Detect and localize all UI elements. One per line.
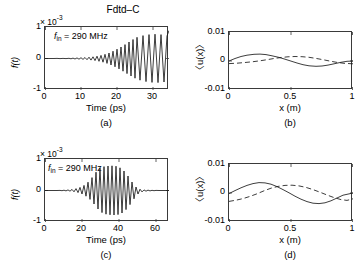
panel-a-annotation-sub: in xyxy=(57,35,62,42)
panel-d-curve-solid xyxy=(229,183,353,204)
panel-a-xlabel: Time (ps) xyxy=(56,102,156,113)
panel-c-ylabel: f(t) xyxy=(10,189,20,200)
panel-a-xtick-0: 0 xyxy=(34,91,54,101)
panel-b-xtick-0: 0 xyxy=(218,91,238,101)
panel-c-xtick-60: 60 xyxy=(145,223,165,233)
panel-b-plot xyxy=(229,32,353,90)
panel-a-xtick-30: 30 xyxy=(142,91,162,101)
panel-b-ytick-pos: 0.01 xyxy=(193,26,225,36)
panel-a-xtick-20: 20 xyxy=(106,91,126,101)
panel-b-caption: (b) xyxy=(260,117,320,128)
panel-c-annotation: fin = 290 MHz xyxy=(48,163,102,174)
panel-a-ytick-0: 0 xyxy=(20,52,41,62)
panel-d-xtick-1: 1 xyxy=(342,223,362,233)
panel-a-annotation-text: = 290 MHz xyxy=(64,31,108,41)
panel-d-xtick-half: 0.5 xyxy=(280,223,300,233)
panel-a-xtick-10: 10 xyxy=(70,91,90,101)
panel-b-ylabel: 〈u(x)〉 xyxy=(192,39,206,75)
panel-a-caption: (a) xyxy=(76,117,136,128)
figure-root: Fdtd–C × 10-3 fin = 290 MHz 1 0 -1 xyxy=(0,0,364,266)
panel-c-ytick-1: 1 xyxy=(20,153,41,163)
panel-c-exponent-power: -3 xyxy=(57,146,63,153)
panel-b-curve-solid xyxy=(229,54,353,66)
panel-c-ytick-0: 0 xyxy=(20,184,41,194)
panel-c-annotation-text: = 290 MHz xyxy=(58,163,102,173)
panel-a-annotation: fin = 290 MHz xyxy=(54,31,108,42)
panel-d-ylabel: 〈u(x)〉 xyxy=(192,171,206,207)
panel-b-xtick-1: 1 xyxy=(342,91,362,101)
panel-c-caption: (c) xyxy=(76,249,136,260)
panel-b-axes xyxy=(228,31,352,89)
panel-d-plot xyxy=(229,164,353,222)
panel-d-xlabel: x (m) xyxy=(240,234,340,245)
figure-title: Fdtd–C xyxy=(78,4,168,15)
panel-a-exponent-power: -3 xyxy=(57,14,63,21)
panel-b-xtick-half: 0.5 xyxy=(280,91,300,101)
panel-d-axes xyxy=(228,163,352,221)
panel-d-caption: (d) xyxy=(260,249,320,260)
panel-b-xlabel: x (m) xyxy=(240,102,340,113)
panel-b-curve-dashed xyxy=(229,57,353,64)
panel-c-xtick-40: 40 xyxy=(108,223,128,233)
panel-a-ylabel: f(t) xyxy=(10,57,20,68)
panel-d-ytick-pos: 0.01 xyxy=(193,158,225,168)
panel-d-ticks xyxy=(229,164,353,222)
panel-c-xtick-0: 0 xyxy=(34,223,54,233)
panel-c-xtick-20: 20 xyxy=(71,223,91,233)
panel-a-ytick-1: 1 xyxy=(20,21,41,31)
panel-c-xlabel: Time (ps) xyxy=(56,234,156,245)
panel-c-annotation-sub: in xyxy=(51,167,56,174)
panel-d-xtick-0: 0 xyxy=(218,223,238,233)
